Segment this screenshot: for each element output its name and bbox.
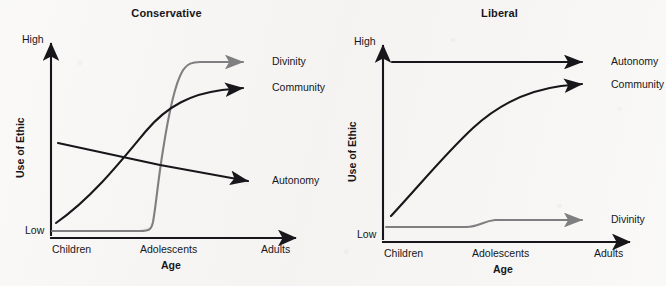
x-tick-children: Children <box>52 243 91 255</box>
panel-liberal: Liberal Hig <box>333 0 666 286</box>
y-axis-high-label: High <box>22 33 44 45</box>
y-axis-title: Use of Ethic <box>346 121 358 182</box>
y-axis-low-label: Low <box>25 224 44 236</box>
series-curve-community <box>56 88 243 223</box>
figure-root: Conservative <box>0 0 666 286</box>
series-curve-divinity <box>52 62 243 231</box>
series-label-community: Community <box>272 81 325 93</box>
y-axis-high-label: High <box>354 35 376 47</box>
series-curve-autonomy <box>58 143 248 181</box>
x-tick-adults: Adults <box>261 243 290 255</box>
series-curve-community <box>391 84 582 216</box>
series-label-autonomy: Autonomy <box>611 55 658 67</box>
series-label-divinity: Divinity <box>272 55 306 67</box>
x-tick-children: Children <box>384 247 423 259</box>
series-curve-divinity <box>386 220 582 227</box>
series-label-autonomy: Autonomy <box>272 174 319 186</box>
y-axis-title: Use of Ethic <box>14 117 26 178</box>
liberal-plot-svg <box>333 0 666 286</box>
x-axis-title: Age <box>161 259 181 271</box>
x-tick-adults: Adults <box>594 247 623 259</box>
series-label-divinity: Divinity <box>611 213 645 225</box>
y-axis-low-label: Low <box>357 228 376 240</box>
x-tick-adolescents: Adolescents <box>472 247 529 259</box>
series-label-community: Community <box>611 78 664 90</box>
panel-conservative: Conservative <box>0 0 333 286</box>
x-tick-adolescents: Adolescents <box>140 243 197 255</box>
x-axis-title: Age <box>493 263 513 275</box>
